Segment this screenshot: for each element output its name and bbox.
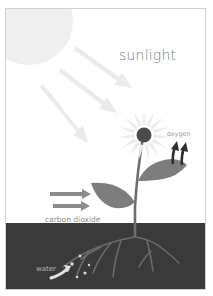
left-leaf <box>91 183 135 209</box>
carbon-dioxide-label: carbon dioxide <box>45 215 100 224</box>
sunlight-label: sunlight <box>119 47 176 63</box>
flower-center <box>137 128 152 143</box>
co2-arrows-icon <box>50 189 91 211</box>
right-leaf <box>138 159 187 181</box>
soil <box>6 223 206 290</box>
oxygen-label: oxygen <box>167 130 191 138</box>
sun-icon <box>6 9 73 65</box>
plant-stem <box>135 137 143 237</box>
diagram-frame: sunlight oxygen carbon dioxide water <box>5 8 206 290</box>
water-label: water <box>36 265 56 273</box>
